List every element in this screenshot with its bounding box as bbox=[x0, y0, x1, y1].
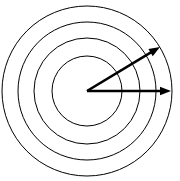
concentric-circles-diagram bbox=[0, 0, 180, 181]
diagram-root bbox=[0, 0, 180, 181]
